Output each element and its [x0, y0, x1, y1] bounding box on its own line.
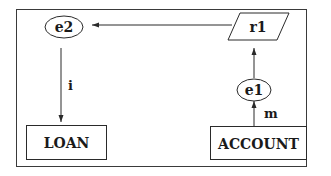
node-e1[interactable]: e1	[237, 79, 271, 101]
node-r1[interactable]: r1	[228, 13, 289, 40]
edge-label-m: m	[264, 106, 278, 121]
edge-label-i: i	[68, 78, 73, 93]
node-loan[interactable]: LOAN	[27, 126, 107, 160]
node-loan-label: LOAN	[44, 135, 90, 151]
node-e2[interactable]: e2	[45, 16, 83, 38]
node-e2-label: e2	[55, 19, 74, 35]
diagram-canvas: e2 r1 i e1 m LOAN ACCOUNT	[0, 0, 331, 176]
node-r1-label: r1	[249, 19, 266, 35]
node-account[interactable]: ACCOUNT	[211, 127, 307, 160]
node-e1-label: e1	[245, 82, 264, 98]
node-account-label: ACCOUNT	[217, 136, 299, 152]
